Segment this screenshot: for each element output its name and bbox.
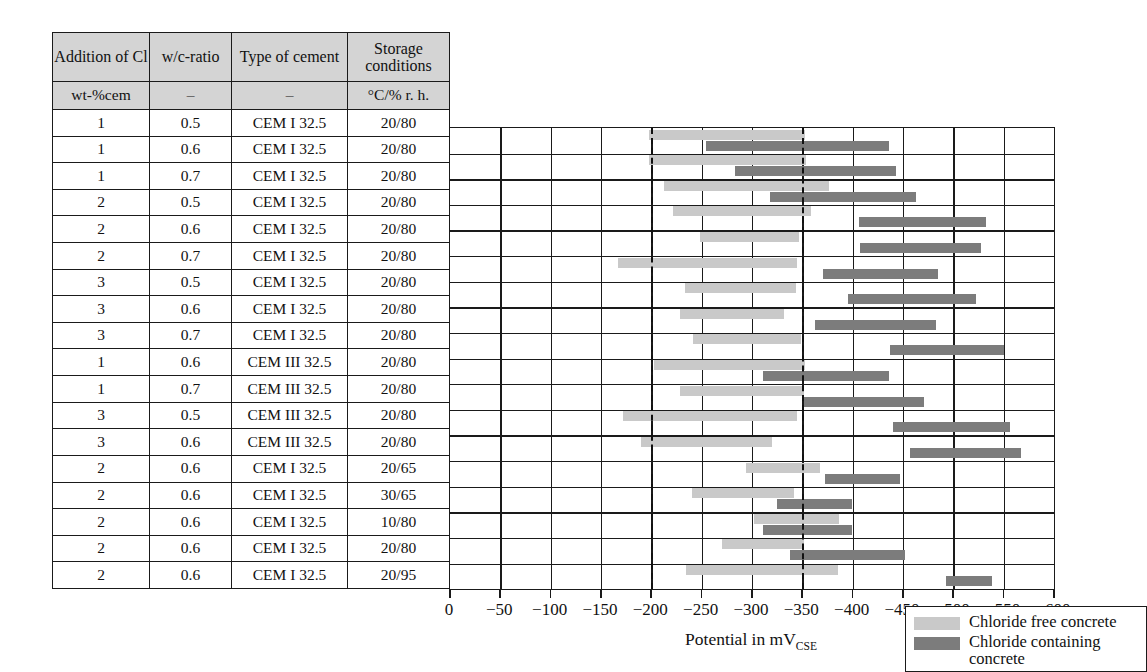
- chart-legend: Chloride free concrete Chloride containi…: [905, 606, 1147, 672]
- bar-chloride-free: [693, 334, 802, 344]
- bar-chloride-free: [641, 437, 772, 447]
- bar-group-row: [450, 461, 1054, 487]
- reference-line-350mv: [802, 128, 804, 589]
- cell-addition-of-cl: 2: [53, 216, 150, 243]
- cell-addition-of-cl: 1: [53, 110, 150, 137]
- bar-chloride-containing: [770, 192, 916, 202]
- cell-storage-conditions: 20/80: [348, 535, 450, 562]
- bar-chloride-containing: [848, 294, 977, 304]
- x-axis-tick-label: −50: [486, 600, 513, 620]
- cell-type-of-cement: CEM I 32.5: [232, 163, 348, 190]
- x-axis-tick: [650, 589, 652, 598]
- table-row: 20.6CEM I 32.510/80: [53, 509, 450, 536]
- cell-wc-ratio: 0.6: [150, 482, 232, 509]
- cell-type-of-cement: CEM I 32.5: [232, 136, 348, 163]
- legend-swatch-icon-chloride-containing: [914, 637, 960, 650]
- cell-addition-of-cl: 2: [53, 562, 150, 589]
- cell-storage-conditions: 20/65: [348, 455, 450, 482]
- bar-chloride-containing: [825, 474, 899, 484]
- table-row: 20.6CEM I 32.520/65: [53, 455, 450, 482]
- cell-wc-ratio: 0.7: [150, 322, 232, 349]
- table-row: 30.5CEM III 32.520/80: [53, 402, 450, 429]
- bar-chloride-containing: [804, 397, 924, 407]
- x-axis-tick-label: 0: [445, 600, 454, 620]
- header-type-of-cement: Type of cement: [232, 33, 348, 82]
- cell-storage-conditions: 20/80: [348, 243, 450, 270]
- cell-addition-of-cl: 3: [53, 322, 150, 349]
- x-axis-tick: [1053, 589, 1055, 598]
- cell-type-of-cement: CEM I 32.5: [232, 216, 348, 243]
- header-wc-ratio: w/c-ratio: [150, 33, 232, 82]
- cell-addition-of-cl: 3: [53, 269, 150, 296]
- cell-storage-conditions: 20/80: [348, 269, 450, 296]
- bar-chloride-free: [649, 155, 806, 165]
- x-axis-tick: [499, 589, 501, 598]
- bar-chloride-free: [686, 565, 838, 575]
- table-row: 20.6CEM I 32.520/80: [53, 535, 450, 562]
- cell-storage-conditions: 20/80: [348, 376, 450, 403]
- cell-type-of-cement: CEM I 32.5: [232, 296, 348, 323]
- cell-storage-conditions: 20/80: [348, 110, 450, 137]
- cell-storage-conditions: 20/80: [348, 189, 450, 216]
- cell-type-of-cement: CEM I 32.5: [232, 243, 348, 270]
- x-axis-title-text: Potential in mV: [685, 629, 796, 649]
- cell-type-of-cement: CEM I 32.5: [232, 562, 348, 589]
- cell-wc-ratio: 0.6: [150, 455, 232, 482]
- table-row: 10.6CEM I 32.520/80: [53, 136, 450, 163]
- x-axis-tick: [751, 589, 753, 598]
- header-storage-conditions: Storage conditions: [348, 33, 450, 82]
- bar-group-row: [450, 512, 1054, 538]
- x-axis-tick: [701, 589, 703, 598]
- unit-storage-conditions: °C/% r. h.: [348, 82, 450, 110]
- x-axis-tick: [852, 589, 854, 598]
- cell-addition-of-cl: 2: [53, 189, 150, 216]
- bar-chloride-free: [746, 463, 820, 473]
- x-axis-tick-label: −150: [582, 600, 617, 620]
- bar-chloride-containing: [763, 371, 889, 381]
- bar-group-row: [450, 384, 1054, 410]
- bar-chloride-free: [623, 411, 797, 421]
- bar-group-row: [450, 179, 1054, 205]
- cell-wc-ratio: 0.7: [150, 243, 232, 270]
- cell-type-of-cement: CEM I 32.5: [232, 322, 348, 349]
- bar-chloride-free: [654, 360, 805, 370]
- bar-chloride-free: [692, 488, 795, 498]
- unit-type-of-cement: –: [232, 82, 348, 110]
- bar-group-row: [450, 128, 1054, 154]
- bar-group-row: [450, 410, 1054, 436]
- x-axis-tick: [902, 589, 904, 598]
- bar-group-row: [450, 205, 1054, 231]
- legend-swatch-icon-chloride-free: [914, 617, 960, 630]
- cell-addition-of-cl: 2: [53, 535, 150, 562]
- legend-label-chloride-containing: Chloride containing concrete: [969, 633, 1138, 667]
- bar-group-row: [450, 564, 1054, 590]
- cell-addition-of-cl: 3: [53, 296, 150, 323]
- bar-group-row: [450, 333, 1054, 359]
- cell-type-of-cement: CEM I 32.5: [232, 535, 348, 562]
- cell-type-of-cement: CEM I 32.5: [232, 482, 348, 509]
- bar-group-row: [450, 282, 1054, 308]
- table-row: 30.5CEM I 32.520/80: [53, 269, 450, 296]
- cell-wc-ratio: 0.5: [150, 402, 232, 429]
- bar-chloride-containing: [946, 576, 991, 586]
- bar-chloride-containing: [706, 141, 889, 151]
- cell-wc-ratio: 0.6: [150, 429, 232, 456]
- bar-chloride-containing: [890, 345, 1004, 355]
- cell-storage-conditions: 20/80: [348, 322, 450, 349]
- cell-addition-of-cl: 1: [53, 136, 150, 163]
- legend-item-chloride-containing: Chloride containing concrete: [914, 633, 1138, 667]
- bar-chloride-free: [722, 539, 805, 549]
- bar-chloride-free: [680, 309, 785, 319]
- bar-chloride-containing: [860, 243, 981, 253]
- bar-chart-plot-area: Chloride free concrete Chloride containi…: [449, 127, 1055, 590]
- cell-wc-ratio: 0.6: [150, 136, 232, 163]
- x-axis-tick: [550, 589, 552, 598]
- x-axis-tick-label: −400: [834, 600, 869, 620]
- cell-wc-ratio: 0.6: [150, 535, 232, 562]
- cell-wc-ratio: 0.6: [150, 349, 232, 376]
- bar-chloride-containing: [777, 499, 851, 509]
- bar-chloride-free: [700, 232, 800, 242]
- bar-group-row: [450, 487, 1054, 513]
- cell-type-of-cement: CEM I 32.5: [232, 110, 348, 137]
- cell-wc-ratio: 0.6: [150, 216, 232, 243]
